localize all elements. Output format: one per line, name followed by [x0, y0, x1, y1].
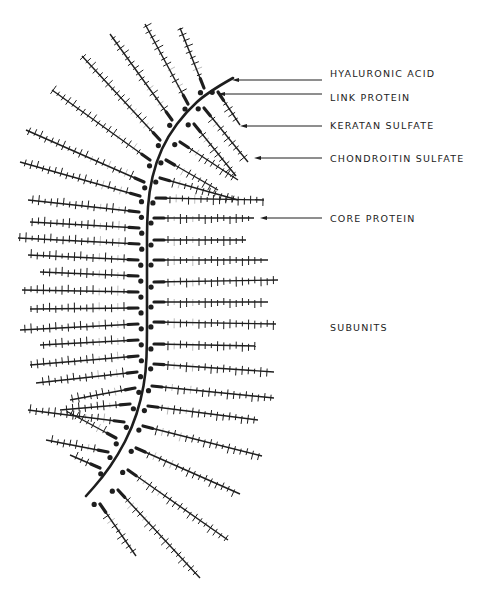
- link-protein-dot: [198, 90, 203, 95]
- glycosaminoglycan-chain: [90, 179, 91, 184]
- label-keratan-sulfate: KERATAN SULFATE: [330, 120, 434, 132]
- glycosaminoglycan-chain: [85, 405, 86, 412]
- glycosaminoglycan-chain: [70, 440, 71, 447]
- glycosaminoglycan-chain: [185, 44, 193, 47]
- glycosaminoglycan-chain: [80, 375, 81, 381]
- core-protein-line: [30, 222, 139, 228]
- glycosaminoglycan-chain: [72, 395, 73, 403]
- glycosaminoglycan-chain: [233, 391, 234, 399]
- glycosaminoglycan-chain: [178, 503, 183, 510]
- glycosaminoglycan-chain: [57, 198, 58, 207]
- core-protein-line: [194, 124, 236, 176]
- link-protein-dot: [131, 406, 136, 411]
- subunit-right-2: [186, 122, 236, 176]
- link-protein-dot: [148, 284, 153, 289]
- glycosaminoglycan-chain: [116, 401, 117, 408]
- glycosaminoglycan-chain: [74, 358, 75, 365]
- glycosaminoglycan-chain: [172, 178, 175, 188]
- glycosaminoglycan-chain: [192, 408, 193, 418]
- link-protein-dot: [158, 160, 163, 165]
- link-protein-dot: [142, 185, 147, 190]
- glycosaminoglycan-chain: [38, 195, 39, 205]
- glycosaminoglycan-chain: [42, 408, 43, 414]
- glycosaminoglycan-chain: [240, 449, 241, 455]
- subunit-right-8: [148, 236, 246, 248]
- link-protein-dot: [186, 122, 191, 127]
- glycosaminoglycan-chain: [100, 204, 101, 210]
- glycosaminoglycan-chain: [98, 370, 99, 379]
- core-protein-line: [204, 108, 248, 162]
- link-protein-dot: [146, 388, 151, 393]
- glycosaminoglycan-chain: [78, 174, 80, 182]
- glycosaminoglycan-chain: [211, 410, 212, 417]
- glycosaminoglycan-chain: [227, 444, 229, 454]
- link-protein-dot: [124, 425, 129, 430]
- glycosaminoglycan-chain: [125, 207, 126, 214]
- glycosaminoglycan-chain: [81, 109, 86, 116]
- subunit-right-15: [146, 384, 274, 402]
- glycosaminoglycan-chain: [184, 387, 185, 394]
- label-subunits: SUBUNITS: [330, 322, 388, 334]
- core-protein-line: [40, 272, 138, 276]
- glycosaminoglycan-chain: [103, 400, 104, 410]
- glycosaminoglycan-chain: [77, 393, 79, 403]
- glycosaminoglycan-chain: [84, 394, 85, 399]
- link-protein-dot: [139, 342, 144, 347]
- glycosaminoglycan-chain: [144, 23, 152, 27]
- glycosaminoglycan-chain: [204, 411, 205, 417]
- link-protein-dot: [114, 441, 119, 446]
- subunit-left-19: [60, 400, 136, 413]
- link-protein-dot: [129, 449, 134, 454]
- core-protein-line: [30, 356, 138, 365]
- glycosaminoglycan-chain: [85, 414, 86, 420]
- glycosaminoglycan-chain: [79, 410, 80, 418]
- link-protein-dot: [148, 242, 153, 247]
- subunit-right-21: [92, 502, 136, 556]
- glycosaminoglycan-chain: [72, 404, 73, 411]
- glycosaminoglycan-chain: [94, 444, 96, 452]
- link-protein-dot: [138, 263, 143, 268]
- subunit-left-16: [30, 352, 144, 369]
- subunit-left-18: [70, 386, 141, 403]
- glycosaminoglycan-chain: [97, 402, 98, 410]
- subunit-left-8: [30, 217, 144, 236]
- glycosaminoglycan-chain: [229, 412, 230, 420]
- glycosaminoglycan-chain: [234, 446, 236, 454]
- glycosaminoglycan-chain: [88, 444, 89, 450]
- glycosaminoglycan-chain: [92, 372, 93, 379]
- glycosaminoglycan-chain: [75, 201, 76, 209]
- glycosaminoglycan-chain: [66, 405, 67, 413]
- glycosaminoglycan-chain: [110, 417, 111, 424]
- label-core-protein: CORE PROTEIN: [330, 213, 416, 225]
- glycosaminoglycan-chain: [260, 367, 261, 377]
- subunit-left-21: [68, 410, 119, 446]
- glycosaminoglycan-chain: [252, 393, 253, 402]
- glycosaminoglycan-chain: [161, 428, 163, 436]
- subunit-left-1: [144, 23, 188, 111]
- link-protein-dot: [138, 310, 143, 315]
- link-protein-dot: [142, 408, 147, 413]
- glycosaminoglycan-chain: [162, 405, 163, 411]
- core-protein-line: [26, 130, 144, 182]
- glycosaminoglycan-chain: [258, 394, 259, 401]
- core-protein-line: [110, 34, 172, 120]
- glycosaminoglycan-chain: [178, 386, 179, 395]
- subunit-right-4: [158, 160, 218, 192]
- subunit-left-9: [18, 232, 144, 251]
- link-protein-dot: [167, 123, 172, 128]
- core-protein-line: [156, 198, 264, 200]
- core-protein-line: [154, 322, 276, 324]
- glycosaminoglycan-chain: [94, 204, 95, 211]
- glycosaminoglycan-chain: [69, 202, 70, 208]
- glycosaminoglycan-chain: [61, 411, 62, 416]
- core-protein-line: [40, 340, 138, 345]
- glycosaminoglycan-chain: [60, 168, 62, 177]
- glycosaminoglycan-chain: [196, 387, 197, 393]
- glycosaminoglycan-chain: [168, 361, 169, 370]
- glycosaminoglycan-chain: [32, 196, 33, 204]
- link-protein-dot: [136, 428, 141, 433]
- glycosaminoglycan-chain: [128, 61, 134, 66]
- subunit-left-0: [178, 28, 204, 95]
- subunit-left-6: [20, 160, 144, 205]
- glycosaminoglycan-chain: [241, 416, 242, 424]
